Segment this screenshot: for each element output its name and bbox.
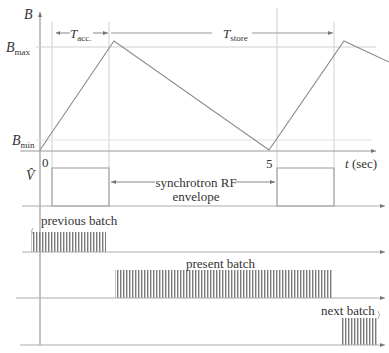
rf-envelope-label: synchrotron RF envelope bbox=[150, 176, 242, 203]
next-batch-brace bbox=[378, 311, 380, 319]
rf-envelope-label-line2: envelope bbox=[150, 190, 242, 203]
time-axis-label: t (sec) bbox=[345, 157, 377, 170]
v-hat-axis-label: V̂ bbox=[26, 169, 35, 183]
previous-batch-bars bbox=[31, 232, 106, 252]
t-store-label: Tstore bbox=[223, 27, 248, 43]
previous-batch-label: previous batch bbox=[41, 214, 117, 227]
rf-envelope-label-line1: synchrotron RF bbox=[150, 176, 242, 189]
t-acc-label: Tacc. bbox=[70, 27, 91, 43]
y-axis-label: B bbox=[24, 8, 33, 22]
rf-envelope-pulse-2 bbox=[277, 168, 334, 206]
rf-envelope-pulse-1 bbox=[52, 168, 109, 206]
b-min-label: Bmin bbox=[12, 134, 35, 150]
b-field-curve bbox=[40, 41, 389, 150]
next-batch-bars bbox=[342, 318, 377, 345]
b-max-label: Bmax bbox=[6, 41, 30, 57]
present-batch-bars bbox=[115, 270, 333, 298]
present-batch-label: present batch bbox=[186, 257, 255, 270]
next-batch-label: next batch bbox=[321, 304, 375, 317]
tick-label-5: 5 bbox=[266, 157, 273, 170]
tick-label-0: 0 bbox=[42, 156, 49, 169]
